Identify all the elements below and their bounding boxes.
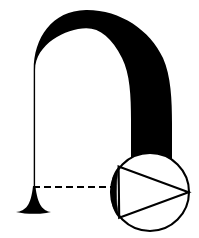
figure-canvas (0, 0, 199, 238)
detail-inset-circle (111, 153, 189, 231)
arch-diagram-svg (0, 0, 199, 238)
